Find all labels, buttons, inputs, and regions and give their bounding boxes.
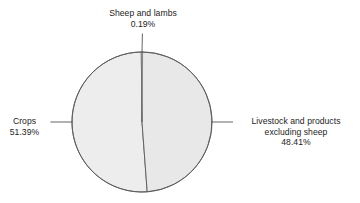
pie-chart: Sheep and lambs 0.19% Crops 51.39% Lives… [0,0,360,203]
slice-label-sheep-value: 0.19% [0,19,286,30]
slice-label-sheep-name: Sheep and lambs [0,8,286,19]
slice-label-livestock: Livestock and products excluding sheep 4… [234,116,358,148]
slice-label-crops: Crops 51.39% [0,116,49,137]
slice-label-crops-name: Crops [0,116,49,127]
pie-slice-livestock[interactable] [141,52,212,192]
slice-label-sheep: Sheep and lambs 0.19% [0,8,286,29]
pie-slice-crops[interactable] [72,52,147,192]
slice-label-crops-value: 51.39% [0,127,49,138]
slice-label-livestock-name-2: excluding sheep [234,127,358,138]
slice-label-livestock-name-1: Livestock and products [234,116,358,127]
pie-chart-canvas [0,0,360,203]
slice-label-livestock-value: 48.41% [234,137,358,148]
